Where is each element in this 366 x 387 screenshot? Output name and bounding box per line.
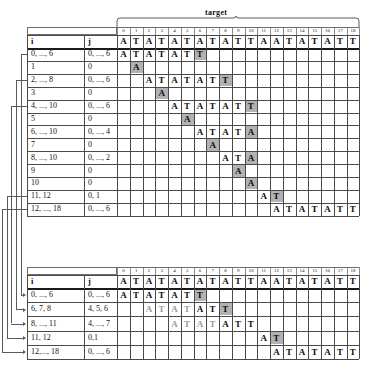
- target-sequence-cell: A: [257, 35, 270, 48]
- index-strip-divider: [155, 267, 156, 275]
- row-label-j: 0: [88, 113, 115, 125]
- connector-segment-vertical: [11, 106, 12, 323]
- index-strip-divider: [232, 267, 233, 275]
- match-cell-highlighted: T: [245, 100, 258, 112]
- column-index: 16: [321, 267, 334, 275]
- row-label-i: 8, ..., 11: [31, 318, 82, 330]
- target-sequence-cell: A: [194, 35, 207, 48]
- target-sequence-cell: A: [257, 275, 270, 288]
- label-header-tab: [27, 267, 117, 275]
- column-index: 12: [270, 27, 283, 35]
- grid-column-divider: [143, 35, 144, 216]
- column-index: 2: [143, 27, 156, 35]
- target-sequence-cell: T: [155, 35, 168, 48]
- table-left-border: [27, 275, 28, 359]
- column-index: 13: [283, 27, 296, 35]
- match-cell: A: [117, 289, 130, 301]
- match-cell: T: [308, 203, 321, 215]
- index-strip-divider: [219, 267, 220, 275]
- connector-arrowhead: [23, 293, 26, 297]
- index-strip-divider: [283, 267, 284, 275]
- row-label-i: 9: [31, 165, 82, 177]
- connector-segment-bottom: [11, 324, 23, 325]
- match-cell: A: [168, 289, 181, 301]
- row-label-i: 6, ..., 10: [31, 126, 82, 138]
- target-sequence-cell: A: [321, 275, 334, 288]
- column-index: 10: [245, 27, 258, 35]
- connector-arrowhead: [23, 322, 26, 326]
- index-strip-divider: [359, 27, 360, 35]
- target-sequence-cell: T: [283, 275, 296, 288]
- target-sequence-cell: A: [117, 35, 130, 48]
- column-index: 8: [219, 267, 232, 275]
- match-cell: A: [194, 318, 207, 330]
- target-sequence-cell: T: [308, 275, 321, 288]
- grid-column-divider: [143, 275, 144, 359]
- row-label-i: 11, 12: [31, 332, 82, 344]
- match-cell: A: [143, 289, 156, 301]
- grid-column-divider: [232, 35, 233, 216]
- match-cell: T: [206, 74, 219, 86]
- target-sequence-cell: T: [181, 275, 194, 288]
- match-cell: T: [155, 303, 168, 315]
- diagram-canvas: target 0123456789101112131415161718ijATA…: [0, 0, 366, 387]
- index-strip-divider: [206, 27, 207, 35]
- index-strip-divider: [308, 267, 309, 275]
- row-label-i: 0, ..., 6: [31, 48, 82, 60]
- match-cell-highlighted: A: [232, 165, 245, 177]
- i-j-divider: [84, 35, 85, 216]
- index-strip-top-rule: [117, 27, 359, 28]
- match-cell: A: [143, 48, 156, 60]
- match-cell: A: [143, 74, 156, 86]
- match-cell: A: [321, 346, 334, 358]
- grid-column-divider: [296, 275, 297, 359]
- target-sequence-cell: A: [270, 35, 283, 48]
- index-strip-divider: [347, 27, 348, 35]
- index-strip-divider: [283, 27, 284, 35]
- index-strip-divider: [130, 267, 131, 275]
- row-label-j: 0, ..., 6: [88, 289, 115, 301]
- row-label-i: 10: [31, 177, 82, 189]
- target-sequence-cell: A: [168, 275, 181, 288]
- row-label-j: 4, 5, 6: [88, 303, 115, 315]
- grid-column-divider: [168, 35, 169, 216]
- connector-arrowhead: [23, 308, 26, 312]
- target-sequence-cell: A: [168, 35, 181, 48]
- match-cell: T: [347, 346, 360, 358]
- index-strip-divider: [245, 267, 246, 275]
- connector-segment-top: [16, 80, 28, 81]
- index-strip-divider: [321, 267, 322, 275]
- target-sequence-cell: T: [181, 35, 194, 48]
- match-cell: A: [321, 203, 334, 215]
- match-cell: T: [206, 100, 219, 112]
- match-cell: A: [270, 203, 283, 215]
- match-cell: T: [206, 318, 219, 330]
- grid-column-divider: [270, 275, 271, 359]
- match-cell: T: [334, 203, 347, 215]
- table-left-border: [27, 35, 28, 216]
- match-cell: T: [232, 126, 245, 138]
- j-grid-divider: [117, 35, 118, 216]
- grid-column-divider: [308, 275, 309, 359]
- row-label-i: 5: [31, 113, 82, 125]
- index-strip-divider: [308, 27, 309, 35]
- target-sequence-cell: T: [130, 275, 143, 288]
- target-sequence-cell: A: [143, 35, 156, 48]
- grid-column-divider: [347, 35, 348, 216]
- match-cell: T: [181, 100, 194, 112]
- grid-column-divider: [155, 275, 156, 359]
- column-index: 13: [283, 267, 296, 275]
- row-label-j: 0,1: [88, 332, 115, 344]
- target-sequence-cell: A: [219, 275, 232, 288]
- match-cell-highlighted: T: [194, 48, 207, 60]
- match-cell: T: [347, 203, 360, 215]
- column-index: 3: [155, 267, 168, 275]
- target-sequence-cell: T: [130, 35, 143, 48]
- grid-column-divider: [181, 35, 182, 216]
- grid-column-divider: [334, 35, 335, 216]
- index-strip-divider: [168, 27, 169, 35]
- match-cell: T: [245, 318, 258, 330]
- match-cell: A: [117, 48, 130, 60]
- row-label-i: 2, ..., 8: [31, 74, 82, 86]
- column-index: 8: [219, 27, 232, 35]
